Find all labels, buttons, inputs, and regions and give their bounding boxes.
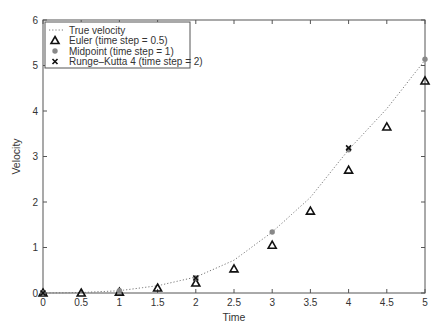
y-axis-label: Velocity (10, 138, 22, 175)
x-tick-label: 2.5 (227, 297, 241, 308)
y-tick-label: 1 (32, 242, 38, 253)
x-tick-label: 1 (117, 297, 123, 308)
x-tick-label: 0 (40, 297, 46, 308)
legend-item-label: True velocity (69, 25, 125, 36)
x-axis-label: Time (223, 311, 246, 323)
y-tick-label: 2 (32, 197, 38, 208)
x-tick-label: 2 (193, 297, 199, 308)
chart: 00.511.522.533.544.550123456TimeVelocity… (0, 0, 441, 328)
x-tick-label: 4 (346, 297, 352, 308)
y-tick-label: 6 (32, 15, 38, 26)
y-tick-label: 5 (32, 60, 38, 71)
x-tick-label: 0.5 (74, 297, 88, 308)
legend-item-label: Euler (time step = 0.5) (69, 35, 168, 46)
x-tick-label: 3.5 (303, 297, 317, 308)
legend-item-label: Runge–Kutta 4 (time step = 2) (69, 56, 203, 67)
legend-item-label: Midpoint (time step = 1) (69, 46, 174, 57)
y-tick-label: 0 (32, 288, 38, 299)
x-tick-label: 3 (269, 297, 275, 308)
x-tick-label: 5 (422, 297, 428, 308)
plot-area: 00.511.522.533.544.550123456TimeVelocity… (0, 0, 441, 328)
x-tick-label: 1.5 (151, 297, 165, 308)
midpoint-point (422, 56, 427, 61)
midpoint-point (117, 288, 122, 293)
y-tick-label: 4 (32, 106, 38, 117)
y-tick-label: 3 (32, 151, 38, 162)
legend-dot-icon (52, 48, 57, 53)
midpoint-point (270, 229, 275, 234)
x-tick-label: 4.5 (380, 297, 394, 308)
